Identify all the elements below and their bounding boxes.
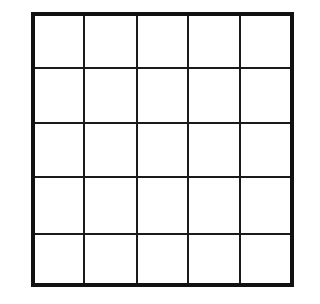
grid-5x5 xyxy=(31,12,294,287)
grid-horizontal-line-3 xyxy=(35,176,290,178)
grid-vertical-line-2 xyxy=(136,16,138,283)
grid-horizontal-line-2 xyxy=(35,122,290,124)
grid-horizontal-line-1 xyxy=(35,67,290,69)
grid-vertical-line-3 xyxy=(187,16,189,283)
grid-vertical-line-4 xyxy=(239,16,241,283)
grid-horizontal-line-4 xyxy=(35,233,290,235)
grid-vertical-line-1 xyxy=(83,16,85,283)
